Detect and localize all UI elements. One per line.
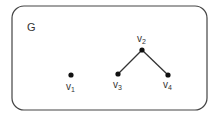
vertex-v1 bbox=[68, 72, 73, 77]
vertex-label-v4: v4 bbox=[163, 79, 172, 91]
vertex-label-v3: v3 bbox=[113, 79, 122, 91]
vertex-label-v1: v1 bbox=[66, 81, 75, 93]
graph-diagram: G v1 v2 v3 v4 bbox=[0, 0, 215, 119]
graph-boundary bbox=[12, 6, 207, 110]
vertex-v2 bbox=[139, 47, 144, 52]
graph-label: G bbox=[27, 21, 36, 33]
vertex-label-v2: v2 bbox=[137, 33, 146, 45]
edge-v2-v3 bbox=[118, 50, 142, 74]
edge-v2-v4 bbox=[142, 50, 168, 75]
vertex-v3 bbox=[115, 71, 120, 76]
vertex-v4 bbox=[165, 72, 170, 77]
